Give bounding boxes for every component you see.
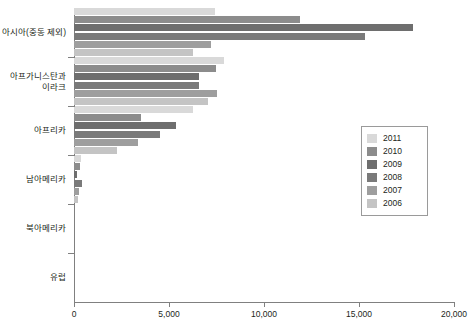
- bar-row: [74, 286, 454, 293]
- bar-2009-2: [74, 122, 176, 129]
- bar-row: [74, 98, 454, 105]
- y-axis-label-2: 아프리카: [0, 125, 66, 136]
- legend-label: 2007: [383, 186, 402, 195]
- x-axis-label-4: 20,000: [441, 309, 467, 319]
- x-axis-label-3: 15,000: [346, 309, 372, 319]
- bar-row: [74, 114, 454, 121]
- bar-2010-2: [74, 114, 141, 121]
- x-axis-label-2: 10,000: [251, 309, 277, 319]
- bar-2008-1: [74, 82, 199, 89]
- bar-row: [74, 261, 454, 268]
- bar-2006-0: [74, 49, 193, 56]
- bar-row: [74, 73, 454, 80]
- bar-2008-2: [74, 131, 160, 138]
- bar-row: [74, 253, 454, 260]
- y-axis-tick: [68, 106, 75, 107]
- bar-row: [74, 24, 454, 31]
- bar-group: [74, 8, 454, 57]
- bar-row: [74, 269, 454, 276]
- bar-2008-3: [74, 180, 82, 187]
- legend-item-2008[interactable]: 2008: [367, 171, 423, 184]
- x-axis-tick: [359, 302, 360, 307]
- legend-label: 2009: [383, 160, 402, 169]
- legend-swatch-icon: [367, 147, 377, 156]
- bar-row: [74, 220, 454, 227]
- y-axis-tick: [68, 57, 75, 58]
- bar-row: [74, 106, 454, 113]
- bar-2007-1: [74, 90, 217, 97]
- bar-2011-1: [74, 57, 224, 64]
- bar-row: [74, 278, 454, 285]
- bar-row: [74, 41, 454, 48]
- bar-2009-3: [74, 171, 77, 178]
- bar-chart: 아시아(중동 제외)아프가니스탄과 이라크아프리카남아메리카북아메리카유럽 05…: [0, 0, 469, 330]
- y-axis-label-0: 아시아(중동 제외): [0, 27, 66, 38]
- bar-2006-1: [74, 98, 208, 105]
- legend-item-2011[interactable]: 2011: [367, 132, 423, 145]
- y-axis-label-3: 남아메리카: [0, 174, 66, 185]
- x-axis-label-1: 5,000: [158, 309, 179, 319]
- bar-group: [74, 253, 454, 302]
- bar-row: [74, 229, 454, 236]
- bar-row: [74, 237, 454, 244]
- legend-swatch-icon: [367, 199, 377, 208]
- y-axis-tick: [68, 253, 75, 254]
- bar-2007-3: [74, 188, 79, 195]
- legend-item-2007[interactable]: 2007: [367, 184, 423, 197]
- bar-2007-2: [74, 139, 138, 146]
- legend-item-2006[interactable]: 2006: [367, 197, 423, 210]
- legend-swatch-icon: [367, 160, 377, 169]
- legend-label: 2008: [383, 173, 402, 182]
- y-axis-label-4: 북아메리카: [0, 223, 66, 234]
- x-axis-tick: [169, 302, 170, 307]
- x-axis-tick: [454, 302, 455, 307]
- bar-group: [74, 57, 454, 106]
- bar-2009-1: [74, 73, 199, 80]
- bar-row: [74, 82, 454, 89]
- legend-swatch-icon: [367, 186, 377, 195]
- legend-label: 2011: [383, 134, 401, 143]
- legend-swatch-icon: [367, 134, 377, 143]
- legend-label: 2006: [383, 199, 402, 208]
- bar-2011-2: [74, 106, 193, 113]
- legend-label: 2010: [383, 147, 402, 156]
- x-axis-tick: [264, 302, 265, 307]
- legend-swatch-icon: [367, 173, 377, 182]
- legend-item-2009[interactable]: 2009: [367, 158, 423, 171]
- bar-2011-0: [74, 8, 215, 15]
- bar-row: [74, 65, 454, 72]
- x-axis-tick: [74, 296, 75, 307]
- bar-2006-3: [74, 196, 78, 203]
- y-axis-label-1: 아프가니스탄과 이라크: [0, 71, 66, 93]
- y-axis-tick: [68, 204, 75, 205]
- y-axis-label-5: 유럽: [0, 272, 66, 283]
- bar-row: [74, 245, 454, 252]
- bar-row: [74, 8, 454, 15]
- bar-row: [74, 90, 454, 97]
- legend-item-2010[interactable]: 2010: [367, 145, 423, 158]
- bar-2006-2: [74, 147, 117, 154]
- bar-2010-0: [74, 16, 300, 23]
- bar-2010-1: [74, 65, 216, 72]
- bar-row: [74, 57, 454, 64]
- y-axis-tick: [68, 155, 75, 156]
- bar-2007-0: [74, 41, 211, 48]
- bar-row: [74, 16, 454, 23]
- bar-2010-3: [74, 163, 80, 170]
- bar-row: [74, 49, 454, 56]
- bar-row: [74, 33, 454, 40]
- x-axis-label-0: 0: [72, 309, 77, 319]
- bar-2008-0: [74, 33, 365, 40]
- bar-2009-0: [74, 24, 413, 31]
- bar-row: [74, 294, 454, 301]
- legend: 201120102009200820072006: [361, 126, 428, 216]
